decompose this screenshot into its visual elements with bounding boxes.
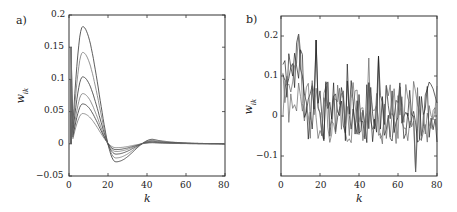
a-plot-frame xyxy=(69,15,225,176)
b-series-line xyxy=(283,34,437,172)
b-series-line xyxy=(283,34,437,172)
plot-canvas xyxy=(0,0,457,212)
